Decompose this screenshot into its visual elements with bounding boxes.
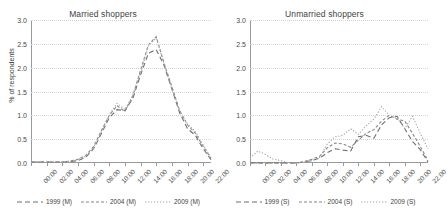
- y-axis-tick-label: 1.0: [17, 112, 27, 119]
- gridline: [250, 139, 428, 140]
- x-axis-tickmark: [141, 163, 142, 166]
- x-axis-tick-label: 06:00: [89, 168, 105, 184]
- x-axis-tick-label: 14:00: [369, 168, 385, 184]
- legend-item[interactable]: 2009 (S): [361, 198, 415, 205]
- x-axis-tick-label: 16:00: [167, 168, 183, 184]
- x-axis-tick-label: 10:00: [120, 168, 136, 184]
- legend-line-swatch: [361, 199, 387, 205]
- legend-item[interactable]: 2004 (S): [299, 198, 353, 205]
- x-axis-tick-label: 00:00: [261, 168, 277, 184]
- legend-item[interactable]: 2009 (M): [145, 198, 200, 205]
- gridline: [250, 20, 428, 21]
- y-axis-tick-label: 2.0: [17, 64, 27, 71]
- x-axis-tickmark: [312, 163, 313, 166]
- legend-line-swatch: [145, 199, 171, 205]
- x-axis-tick-label: 12:00: [354, 168, 370, 184]
- legend-line-swatch: [236, 199, 262, 205]
- legend-line-swatch: [299, 199, 325, 205]
- gridline: [31, 44, 211, 45]
- x-axis-tickmark: [420, 163, 421, 166]
- x-axis-tickmark: [265, 163, 266, 166]
- y-axis-tick-label: 0.5: [17, 136, 27, 143]
- x-axis-tickmark: [31, 163, 32, 166]
- y-axis-tick-label: 2.5: [236, 40, 246, 47]
- legend-label: 1999 (M): [46, 198, 72, 205]
- panel-title-unmarried: Unmarried shoppers: [227, 9, 422, 19]
- x-axis-tickmark: [389, 163, 390, 166]
- gridline: [31, 68, 211, 69]
- legend-line-swatch: [81, 199, 107, 205]
- x-axis-tick-label: 02:00: [57, 168, 73, 184]
- panel-married: Married shoppers % of respondents 0.00.5…: [0, 0, 217, 211]
- legend-married: 1999 (M)2004 (M)2009 (M): [0, 198, 217, 205]
- gridline: [250, 92, 428, 93]
- x-axis-tick-label: 02:00: [276, 168, 292, 184]
- gridline: [31, 139, 211, 140]
- x-axis-tickmark: [188, 163, 189, 166]
- y-axis-tick-label: 1.5: [236, 88, 246, 95]
- x-axis-tick-label: 06:00: [307, 168, 323, 184]
- x-axis-tick-label: 20:00: [416, 168, 432, 184]
- y-axis-tick-label: 2.0: [236, 64, 246, 71]
- legend-label: 2004 (M): [110, 198, 136, 205]
- data-series-line: [31, 38, 211, 162]
- x-axis-tick-label: 20:00: [198, 168, 214, 184]
- legend-unmarried: 1999 (S)2004 (S)2009 (S): [217, 198, 434, 205]
- legend-item[interactable]: 2004 (M): [81, 198, 136, 205]
- x-axis-tickmark: [281, 163, 282, 166]
- y-axis-tick-label: 0.5: [236, 136, 246, 143]
- x-axis-tick-label: 14:00: [151, 168, 167, 184]
- legend-line-swatch: [17, 199, 43, 205]
- x-axis-tickmark: [296, 163, 297, 166]
- x-axis-tick-label: 16:00: [385, 168, 401, 184]
- x-axis-tickmark: [172, 163, 173, 166]
- x-axis-tick-label: 10:00: [338, 168, 354, 184]
- x-axis-tick-label: 00:00: [42, 168, 58, 184]
- legend-label: 2009 (M): [174, 198, 200, 205]
- y-axis-tick-label: 0.0: [17, 160, 27, 167]
- y-axis-tick-label: 1.5: [17, 88, 27, 95]
- x-axis-tickmark: [47, 163, 48, 166]
- x-axis-tickmark: [358, 163, 359, 166]
- panel-title-married: Married shoppers: [8, 9, 198, 19]
- x-axis-tickmark: [405, 163, 406, 166]
- x-axis-tick-label: 12:00: [136, 168, 152, 184]
- x-axis-tickmark: [156, 163, 157, 166]
- y-axis-tick-label: 2.5: [17, 40, 27, 47]
- x-axis-tickmark: [203, 163, 204, 166]
- plot-area-married: 0.00.51.01.52.02.53.000:0002:0004:0006:0…: [31, 20, 211, 163]
- x-axis-tickmark: [109, 163, 110, 166]
- gridline: [31, 20, 211, 21]
- panel-unmarried: Unmarried shoppers 0.00.51.01.52.02.53.0…: [217, 0, 434, 211]
- y-axis-tick-label: 3.0: [236, 17, 246, 24]
- gridline: [31, 115, 211, 116]
- y-axis-tick-label: 3.0: [17, 17, 27, 24]
- x-axis-tickmark: [94, 163, 95, 166]
- gridline: [31, 92, 211, 93]
- legend-item[interactable]: 1999 (S): [236, 198, 290, 205]
- x-axis-tickmark: [62, 163, 63, 166]
- gridline: [250, 68, 428, 69]
- legend-label: 1999 (S): [265, 198, 290, 205]
- legend-item[interactable]: 1999 (M): [17, 198, 72, 205]
- plot-area-unmarried: 0.00.51.01.52.02.53.000:0002:0004:0006:0…: [250, 20, 428, 163]
- x-axis-tick-label: 08:00: [104, 168, 120, 184]
- y-axis-tick-label: 0.0: [236, 160, 246, 167]
- x-axis-tickmark: [374, 163, 375, 166]
- gridline: [250, 44, 428, 45]
- legend-label: 2004 (S): [328, 198, 353, 205]
- y-axis-label: % of respondents: [8, 21, 15, 131]
- x-axis-tickmark: [327, 163, 328, 166]
- data-series-line: [31, 50, 211, 163]
- x-axis-tickmark: [343, 163, 344, 166]
- x-axis-tick-label: 18:00: [183, 168, 199, 184]
- x-axis-tick-label: 22:00: [431, 168, 447, 184]
- x-axis-tick-label: 04:00: [292, 168, 308, 184]
- legend-label: 2009 (S): [390, 198, 415, 205]
- gridline: [250, 115, 428, 116]
- data-series-line: [31, 37, 211, 162]
- y-axis-tick-label: 1.0: [236, 112, 246, 119]
- x-axis-tickmark: [125, 163, 126, 166]
- x-axis-tickmark: [250, 163, 251, 166]
